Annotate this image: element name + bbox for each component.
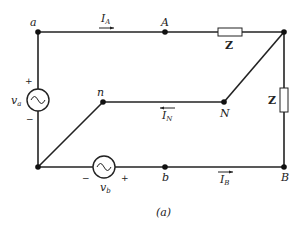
figure-caption: (a) xyxy=(156,206,171,219)
node-a-dot xyxy=(35,29,41,35)
impedance-right xyxy=(280,88,288,112)
source-label-vb: vb xyxy=(100,181,111,195)
node-label-N: N xyxy=(219,107,230,120)
node-label-a: a xyxy=(30,16,37,29)
node-b-dot xyxy=(162,164,168,170)
impedance-label-right: Z xyxy=(268,94,276,107)
source-va-minus: − xyxy=(26,114,34,124)
node-B-dot xyxy=(281,164,287,170)
node-n-dot xyxy=(100,99,106,105)
node-A-dot xyxy=(162,29,168,35)
wire-diagonal-left xyxy=(38,102,103,167)
current-label-IB: IB xyxy=(219,173,230,187)
node-label-B: B xyxy=(280,171,289,184)
node-label-A: A xyxy=(160,16,169,29)
impedance-label-top: Z xyxy=(225,39,233,52)
node-bottom-left-dot xyxy=(35,164,41,170)
node-label-n: n xyxy=(97,86,104,99)
source-label-va: va xyxy=(11,94,21,108)
current-label-IN: IN xyxy=(161,109,173,123)
source-vb-plus: + xyxy=(121,173,129,183)
circuit-diagram: a A n N b B IA IN IB Z Z va + − vb − + (… xyxy=(0,0,304,231)
arrow-right-icon xyxy=(99,27,114,30)
current-label-IA: IA xyxy=(100,12,110,26)
node-label-b: b xyxy=(162,171,169,184)
source-vb-minus: − xyxy=(82,173,90,183)
node-N-dot xyxy=(221,99,227,105)
node-corner-dot xyxy=(281,29,287,35)
impedance-top xyxy=(218,28,242,36)
source-va-plus: + xyxy=(25,76,33,86)
